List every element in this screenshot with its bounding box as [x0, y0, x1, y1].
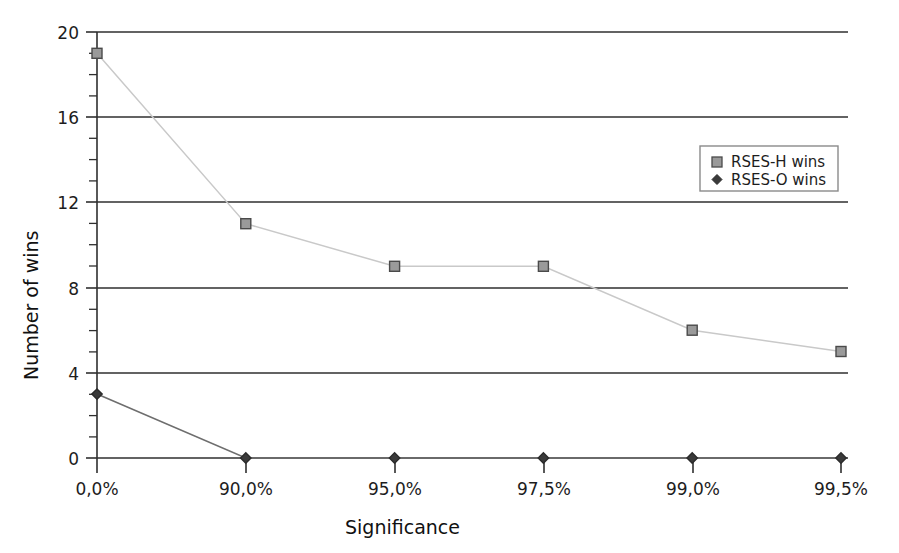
y-tick-label-0: 0: [68, 449, 79, 469]
square-marker: [241, 219, 251, 229]
x-axis-title: Significance: [345, 516, 460, 538]
x-tick-label-1: 90,0%: [219, 479, 273, 499]
chart-container: 20 16 12 8 4 0 Number of wins 0,0% 90,0%…: [0, 0, 899, 553]
x-tick-label-2: 95,0%: [368, 479, 422, 499]
x-tick-label-3: 97,5%: [517, 479, 571, 499]
y-tick-label-12: 12: [57, 193, 79, 213]
square-marker: [538, 261, 548, 271]
y-tick-label-8: 8: [68, 279, 79, 299]
legend-entry-0-label: RSES-H wins: [731, 153, 825, 171]
x-tick-label-5: 99,5%: [814, 479, 868, 499]
square-marker: [390, 261, 400, 271]
chart-background: [0, 0, 899, 553]
square-marker-icon: [712, 157, 722, 167]
square-marker: [92, 48, 102, 58]
y-tick-label-20: 20: [57, 23, 79, 43]
y-tick-label-16: 16: [57, 108, 79, 128]
square-marker: [687, 325, 697, 335]
line-chart: 20 16 12 8 4 0 Number of wins 0,0% 90,0%…: [0, 0, 899, 553]
x-tick-label-4: 99,0%: [666, 479, 720, 499]
legend-entry-1-label: RSES-O wins: [731, 171, 826, 189]
x-tick-label-0: 0,0%: [75, 479, 118, 499]
chart-legend: RSES-H wins RSES-O wins: [700, 146, 838, 191]
y-tick-label-4: 4: [68, 364, 79, 384]
y-axis-title: Number of wins: [20, 231, 42, 380]
square-marker: [836, 347, 846, 357]
